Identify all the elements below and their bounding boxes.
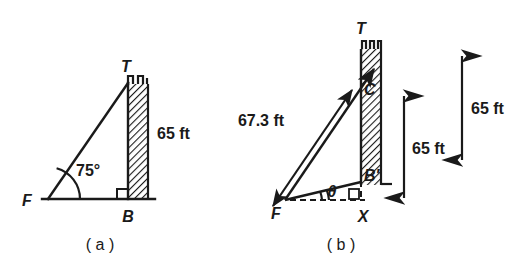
label-F-a: F bbox=[22, 192, 33, 209]
wall-b-hatch bbox=[361, 49, 381, 185]
slant-length-label-b: 67.3 ft bbox=[238, 112, 285, 129]
trigonometry-diagram: T F B 75° 65 ft ( a ) bbox=[0, 0, 522, 269]
crenellations-a bbox=[128, 76, 147, 84]
angle-arc-theta-b bbox=[320, 192, 322, 201]
label-T-b: T bbox=[356, 20, 367, 37]
figure-container: T F B 75° 65 ft ( a ) bbox=[0, 0, 522, 269]
wall-a-hatch bbox=[128, 84, 148, 200]
right-angle-marker-b bbox=[349, 189, 359, 199]
label-F-b: F bbox=[271, 205, 282, 222]
slant-dimension-line-b bbox=[273, 90, 352, 206]
wall-a bbox=[128, 76, 148, 200]
dimension-label-inner-b: 65 ft bbox=[412, 140, 446, 157]
crenellations-b bbox=[362, 41, 381, 49]
right-angle-marker-a bbox=[117, 189, 127, 199]
caption-b: ( b ) bbox=[327, 236, 355, 253]
label-T-a: T bbox=[121, 58, 132, 75]
wall-b bbox=[361, 41, 392, 185]
hypotenuse-FT-a bbox=[48, 83, 128, 199]
dimension-label-a: 65 ft bbox=[157, 125, 191, 142]
caption-a: ( a ) bbox=[86, 236, 114, 253]
dimension-label-outer-b: 65 ft bbox=[471, 100, 505, 117]
label-B-a: B bbox=[122, 208, 134, 225]
label-B-prime-b: B′ bbox=[364, 167, 381, 184]
angle-label-a: 75° bbox=[76, 162, 100, 179]
angle-label-theta-b: θ bbox=[328, 183, 337, 200]
label-X-b: X bbox=[357, 208, 370, 225]
panel-b-group: T C B′ F X θ 67.3 ft 65 ft 65 ft ( b ) bbox=[238, 20, 505, 253]
label-C-b: C bbox=[364, 81, 376, 98]
panel-a-group: T F B 75° 65 ft ( a ) bbox=[22, 58, 190, 253]
